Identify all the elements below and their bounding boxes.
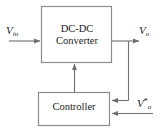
block-diagram-canvas: DC-DC Converter Controller Vin Vo V*o: [0, 0, 163, 129]
controller-block-rect: [39, 93, 110, 126]
diagram-svg: [0, 0, 163, 129]
converter-block-rect: [42, 7, 112, 63]
